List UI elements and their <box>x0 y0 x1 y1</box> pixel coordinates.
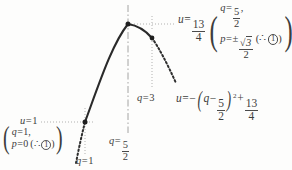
left-group-rows: q=1, p=0(∴1) <box>12 126 55 149</box>
label-u-vertex-relation: = <box>184 13 192 25</box>
label-left-group: ( q=1, p=0(∴1) ) <box>1 125 65 151</box>
left-group-row-q: q=1, <box>12 126 55 137</box>
sqrt-icon: √3 <box>240 38 253 49</box>
vertex-group-row-q: q=52, <box>220 2 281 30</box>
point-marker-q3 <box>150 36 155 41</box>
label-u-vertex-fraction: 134 <box>192 19 206 43</box>
vertex-group-row-p: p=±√32(∴1) <box>220 32 281 61</box>
left-group-row-p: p=0(∴1) <box>12 138 55 149</box>
label-q-equals-1: q=1 <box>76 155 93 166</box>
vertex-group-close-paren: ) <box>284 15 292 48</box>
label-q-equals-five-halves: q=52 <box>109 135 129 163</box>
because-symbol-vertex: ∴ <box>259 33 266 44</box>
left-group-open-paren: ( <box>3 125 10 151</box>
label-u-vertex-var: u <box>178 13 184 25</box>
vertex-group-open-paren: ( <box>210 15 218 48</box>
label-vertex-group: ( q=52, p=±√32(∴1) ) <box>207 2 292 61</box>
curve-dotted-right <box>152 38 176 83</box>
curve-solid-main <box>85 24 152 122</box>
label-equation: u=−(q−52)2+134 <box>176 92 259 122</box>
label-u-vertex: u=134 <box>178 13 206 43</box>
left-group-close-paren: ) <box>56 125 63 151</box>
ref-circle-left: 1 <box>41 140 51 150</box>
point-marker-q1 <box>83 120 88 125</box>
ref-circle-vertex: 1 <box>268 34 278 44</box>
vertex-group-rows: q=52, p=±√32(∴1) <box>220 2 281 61</box>
figure-canvas: u=134 ( q=52, p=±√32(∴1) ) u=−(q−52)2+13… <box>0 0 292 170</box>
because-symbol-left: ∴ <box>34 138 40 149</box>
point-marker-vertex <box>126 22 131 27</box>
label-q-equals-3: q=3 <box>137 92 154 103</box>
